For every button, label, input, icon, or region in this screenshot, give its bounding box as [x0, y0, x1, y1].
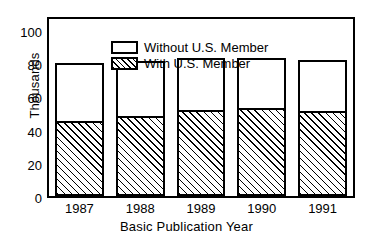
x-axis-tick-label-1987: 1987: [49, 201, 109, 216]
bar-chart-figure: Thousands 100 80 60 40 20 0: [0, 0, 373, 240]
bar-segment-with-us-member: [177, 110, 226, 196]
bar-1990: [237, 58, 286, 196]
legend-label: Without U.S. Member: [144, 41, 268, 54]
x-axis-tick-label-1991: 1991: [293, 201, 353, 216]
bar-segment-without-us-member: [298, 60, 347, 114]
x-axis-tick-label-1988: 1988: [110, 201, 170, 216]
bar-segment-without-us-member: [55, 63, 104, 123]
y-axis-tick-label: 100: [0, 26, 42, 39]
x-axis-title: Basic Publication Year: [0, 219, 373, 234]
bar-1989: [177, 58, 226, 196]
x-axis-tick-label-1989: 1989: [171, 201, 231, 216]
y-axis-tick-label: 60: [0, 92, 42, 105]
bar-segment-with-us-member: [298, 111, 347, 196]
plot-area: Without U.S. Member With U.S. Member: [47, 17, 355, 198]
x-axis-tick-label-1990: 1990: [232, 201, 292, 216]
legend-label: With U.S. Member: [144, 57, 250, 70]
legend-swatch-without-us-member: [111, 41, 138, 54]
y-axis-tick-label: 0: [0, 192, 42, 205]
legend-item-with-us-member: With U.S. Member: [111, 56, 268, 71]
bar-1988: [116, 61, 165, 196]
bar-segment-with-us-member: [55, 121, 104, 196]
bar-1987: [55, 63, 104, 196]
chart-legend: Without U.S. Member With U.S. Member: [111, 40, 268, 71]
legend-item-without-us-member: Without U.S. Member: [111, 40, 268, 55]
bar-segment-with-us-member: [116, 116, 165, 196]
y-axis-tick-label: 40: [0, 126, 42, 139]
bar-segment-with-us-member: [237, 108, 286, 196]
legend-swatch-with-us-member: [111, 57, 138, 70]
y-axis-tick-label: 20: [0, 159, 42, 172]
y-axis-tick-label: 80: [0, 59, 42, 72]
bar-1991: [298, 60, 347, 196]
